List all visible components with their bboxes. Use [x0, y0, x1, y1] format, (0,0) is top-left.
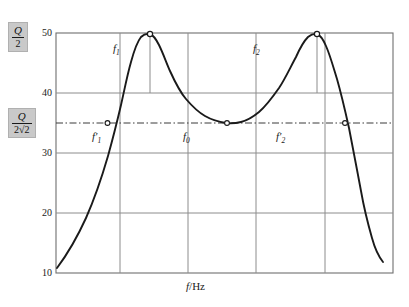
q-over-2-denominator: 2 — [12, 37, 24, 50]
y-tick-label-40: 40 — [34, 88, 52, 98]
marker-f1-peak — [147, 31, 152, 36]
chart-figure: 50 40 30 20 10 Q 2 Q 2√2 f1 f2 f0 f′1 f′… — [0, 0, 409, 307]
q-over-2root2-label-box: Q 2√2 — [8, 108, 36, 138]
q-over-2-fraction: Q 2 — [12, 24, 24, 50]
marker-f2-prime — [343, 121, 348, 126]
y-tick-label-30: 30 — [34, 148, 52, 158]
marker-f1-prime — [105, 121, 110, 126]
x-axis-label: f/Hz — [186, 281, 205, 292]
dip-label-f0: f0 — [183, 131, 190, 145]
q-over-2root2-fraction: Q 2√2 — [12, 110, 32, 136]
half-power-label-f1-prime-sub: 1 — [97, 136, 101, 145]
half-power-label-f2-prime-sub: 2 — [281, 136, 285, 145]
peak-label-f2-sub: 2 — [256, 48, 260, 57]
q-over-2-label-box: Q 2 — [8, 22, 28, 52]
response-curve — [57, 34, 383, 268]
half-power-label-f2-prime: f′2 — [276, 131, 285, 145]
marker-f2-peak — [314, 31, 319, 36]
resonance-curve-plot — [0, 0, 409, 307]
peak-label-f1: f1 — [113, 43, 120, 57]
y-tick-label-20: 20 — [34, 208, 52, 218]
q-over-2root2-numerator: Q — [12, 110, 32, 123]
dip-label-f0-sub: 0 — [186, 136, 190, 145]
y-tick-label-50: 50 — [34, 28, 52, 38]
q-over-2root2-denominator: 2√2 — [12, 123, 32, 136]
q-over-2-numerator: Q — [12, 24, 24, 37]
x-axis-unit: Hz — [192, 280, 205, 292]
peak-label-f1-sub: 1 — [116, 48, 120, 57]
half-power-label-f1-prime: f′1 — [92, 131, 101, 145]
peak-label-f2: f2 — [253, 43, 260, 57]
marker-f0-dip — [225, 121, 230, 126]
y-tick-label-10: 10 — [34, 268, 52, 278]
